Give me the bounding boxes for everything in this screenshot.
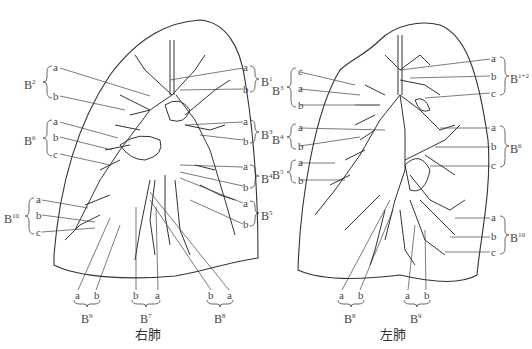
branch-label: c bbox=[53, 149, 58, 160]
left-bronchial-tree bbox=[315, 35, 465, 265]
segment-label-B9: B9 bbox=[410, 310, 422, 325]
branch-label: b bbox=[53, 132, 59, 143]
segment-label-B5: B5 bbox=[261, 207, 273, 222]
branch-label: b bbox=[243, 219, 249, 230]
segment-label-B6: B6 bbox=[24, 132, 36, 147]
right-bronchial-tree bbox=[65, 40, 235, 260]
branch-label: a bbox=[491, 122, 496, 133]
branch-label: b bbox=[298, 175, 304, 186]
segment-label-B7: B7 bbox=[140, 310, 152, 325]
branch-label: a bbox=[155, 290, 160, 301]
branch-label: b bbox=[243, 84, 249, 95]
branch-label: b bbox=[358, 290, 364, 301]
left-lung-outline bbox=[298, 23, 489, 281]
segment-label-B5: B5 bbox=[272, 166, 284, 181]
segment-label-B4: B4 bbox=[261, 170, 273, 185]
branch-label: b bbox=[243, 136, 249, 147]
branch-label: b bbox=[208, 290, 214, 301]
branch-label: a bbox=[298, 157, 303, 168]
branch-label: b bbox=[491, 141, 497, 152]
segment-label-B8: B8 bbox=[344, 310, 356, 325]
segment-label-B1-2: B1+2 bbox=[510, 70, 529, 85]
segment-label-B3: B3 bbox=[261, 126, 273, 141]
branch-label: a bbox=[298, 122, 303, 133]
branch-label: a bbox=[339, 290, 344, 301]
branch-label: c bbox=[36, 227, 41, 238]
branch-label: a bbox=[227, 290, 232, 301]
branch-label: b bbox=[298, 100, 304, 111]
segment-label-B8: B8 bbox=[214, 310, 226, 325]
branch-label: c bbox=[298, 66, 303, 77]
segment-label-B1: B1 bbox=[261, 73, 273, 88]
branch-label: b bbox=[424, 290, 430, 301]
branch-label: a bbox=[243, 62, 248, 73]
branch-label: a bbox=[36, 194, 41, 205]
branch-label: b bbox=[491, 231, 497, 242]
right-leader-lines bbox=[42, 68, 243, 290]
segment-label-B3: B3 bbox=[272, 82, 284, 97]
right-lung-outline bbox=[54, 20, 258, 278]
segment-label-B9: B9 bbox=[81, 310, 93, 325]
segment-label-B10: B10 bbox=[4, 210, 19, 225]
branch-label: a bbox=[243, 198, 248, 209]
branch-label: a bbox=[298, 83, 303, 94]
segment-label-B4: B4 bbox=[272, 131, 284, 146]
branch-label: a bbox=[243, 161, 248, 172]
branch-label: b bbox=[133, 290, 139, 301]
left-lung-caption: 左肺 bbox=[380, 324, 406, 343]
branch-label: a bbox=[491, 53, 496, 64]
segment-label-B10: B10 bbox=[510, 229, 525, 244]
branch-label: b bbox=[36, 210, 42, 221]
branch-label: c bbox=[491, 247, 496, 258]
branch-label: a bbox=[53, 116, 58, 127]
branch-label: b bbox=[53, 91, 59, 102]
branch-label: b bbox=[243, 182, 249, 193]
branch-label: a bbox=[75, 290, 80, 301]
branch-label: c bbox=[491, 88, 496, 99]
branch-label: a bbox=[53, 62, 58, 73]
branch-label: a bbox=[405, 290, 410, 301]
segment-label-B6: B6 bbox=[510, 140, 522, 155]
right-lung-caption: 右肺 bbox=[135, 324, 161, 343]
branch-label: a bbox=[491, 212, 496, 223]
branch-label: c bbox=[491, 160, 496, 171]
branch-label: a bbox=[243, 116, 248, 127]
branch-label: b bbox=[298, 141, 304, 152]
branch-label: b bbox=[491, 71, 497, 82]
branch-label: b bbox=[94, 290, 100, 301]
segment-label-B2: B2 bbox=[24, 76, 36, 91]
